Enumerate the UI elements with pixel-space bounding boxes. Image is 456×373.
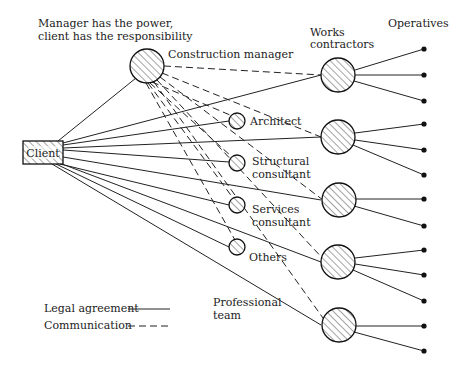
professional-team-label-line2: team	[213, 309, 241, 322]
communication-lines	[146, 66, 328, 325]
works-contractor-node	[322, 183, 356, 217]
professional-team-label-line1: Professional	[213, 296, 282, 309]
architect-label: Architect	[249, 115, 302, 128]
others-label: Others	[249, 251, 287, 264]
title-note-line2: client has the responsibility	[38, 30, 193, 43]
operative-lines	[353, 49, 424, 351]
legend-legal-agreement-label: Legal agreement	[44, 302, 139, 315]
construction-manager-node: Construction manager	[130, 48, 294, 83]
works-contractors	[321, 58, 356, 342]
operatives	[421, 46, 426, 353]
title-note-line1: Manager has the power,	[38, 17, 173, 30]
services-label-line2: consultant	[252, 216, 311, 229]
works-contractor-node	[321, 58, 355, 92]
legend-communication-label: Communication	[44, 319, 132, 332]
legal-agreement-lines	[52, 75, 321, 325]
professional-team-member-others: Others	[229, 239, 287, 264]
works-contractor-node	[321, 120, 355, 154]
operatives-label: Operatives	[388, 17, 449, 30]
works-contractor-node	[322, 308, 356, 342]
construction-manager-label: Construction manager	[168, 48, 294, 61]
structural-label-line1: Structural	[252, 155, 310, 168]
professional-team-member-architect: Architect	[229, 113, 302, 129]
professional-team-member-structural: Structural consultant	[229, 155, 311, 181]
legend: Legal agreement Communication	[44, 302, 170, 332]
works-contractors-label-line2: contractors	[310, 38, 375, 51]
client-label: Client	[26, 147, 60, 160]
works-contractor-node	[321, 245, 355, 279]
structural-label-line2: consultant	[252, 168, 311, 181]
services-label-line1: Services	[252, 203, 300, 216]
client-node: Client	[23, 141, 63, 164]
construction-management-diagram: Manager has the power, client has the re…	[0, 0, 456, 373]
